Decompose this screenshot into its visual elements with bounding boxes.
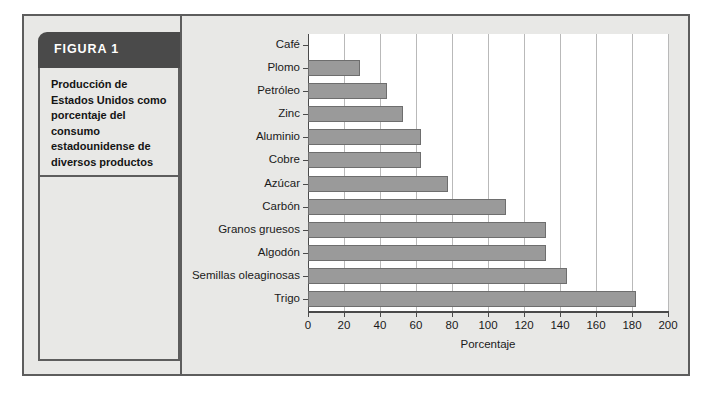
bar-carbón xyxy=(308,199,506,215)
x-tick-180 xyxy=(632,311,633,317)
y-tick-5 xyxy=(303,160,308,161)
x-tick-label-60: 60 xyxy=(396,319,436,331)
x-tick-label-100: 100 xyxy=(468,319,508,331)
x-tick-40 xyxy=(380,311,381,317)
x-tick-100 xyxy=(488,311,489,317)
y-tick-1 xyxy=(303,68,308,69)
bar-row xyxy=(308,149,668,172)
bar-row xyxy=(308,80,668,103)
figure-number-label: FIGURA 1 xyxy=(54,42,119,56)
y-tick-0 xyxy=(303,45,308,46)
y-tick-7 xyxy=(303,207,308,208)
x-tick-label-160: 160 xyxy=(576,319,616,331)
y-axis-label-algodón: Algodón xyxy=(130,246,300,258)
bar-aluminio xyxy=(308,129,421,145)
bar-row xyxy=(308,173,668,196)
bar-semillas-oleaginosas xyxy=(308,268,567,284)
y-axis-label-trigo: Trigo xyxy=(130,292,300,304)
y-axis-label-petróleo: Petróleo xyxy=(130,84,300,96)
x-tick-label-80: 80 xyxy=(432,319,472,331)
y-tick-8 xyxy=(303,230,308,231)
y-axis-label-plomo: Plomo xyxy=(130,61,300,73)
x-tick-160 xyxy=(596,311,597,317)
bar-row xyxy=(308,103,668,126)
y-tick-6 xyxy=(303,184,308,185)
y-tick-3 xyxy=(303,114,308,115)
x-tick-60 xyxy=(416,311,417,317)
y-axis-label-semillas-oleaginosas: Semillas oleaginosas xyxy=(130,269,300,281)
y-tick-10 xyxy=(303,276,308,277)
x-tick-label-40: 40 xyxy=(360,319,400,331)
x-tick-120 xyxy=(524,311,525,317)
bar-trigo xyxy=(308,291,636,307)
y-axis-label-granos-gruesos: Granos gruesos xyxy=(130,223,300,235)
y-tick-2 xyxy=(303,91,308,92)
gridline-200 xyxy=(668,34,669,311)
bar-zinc xyxy=(308,106,403,122)
x-tick-label-200: 200 xyxy=(648,319,688,331)
bar-azúcar xyxy=(308,176,448,192)
bar-plomo xyxy=(308,60,360,76)
x-tick-20 xyxy=(344,311,345,317)
bar-row xyxy=(308,57,668,80)
bar-row xyxy=(308,34,668,57)
x-axis-title: Porcentaje xyxy=(308,338,668,350)
x-tick-80 xyxy=(452,311,453,317)
x-tick-200 xyxy=(668,311,669,317)
x-tick-label-140: 140 xyxy=(540,319,580,331)
bar-row xyxy=(308,196,668,219)
y-tick-11 xyxy=(303,299,308,300)
bar-granos-gruesos xyxy=(308,222,546,238)
chart-panel: CaféPlomoPetróleoZincAluminioCobreAzúcar… xyxy=(182,16,688,374)
x-tick-label-20: 20 xyxy=(324,319,364,331)
y-tick-4 xyxy=(303,137,308,138)
x-tick-140 xyxy=(560,311,561,317)
bar-row xyxy=(308,265,668,288)
y-axis-label-aluminio: Aluminio xyxy=(130,130,300,142)
bar-row xyxy=(308,126,668,149)
bar-petróleo xyxy=(308,83,387,99)
y-axis-label-zinc: Zinc xyxy=(130,107,300,119)
figure-frame: FIGURA 1 Producción de Estados Unidos co… xyxy=(22,14,690,376)
x-tick-label-120: 120 xyxy=(504,319,544,331)
x-tick-label-0: 0 xyxy=(288,319,328,331)
bar-cobre xyxy=(308,152,421,168)
plot-area xyxy=(308,34,668,311)
bar-row xyxy=(308,219,668,242)
y-axis-label-cobre: Cobre xyxy=(130,153,300,165)
y-tick-9 xyxy=(303,253,308,254)
y-axis-label-café: Café xyxy=(130,38,300,50)
x-tick-0 xyxy=(308,311,309,317)
x-tick-label-180: 180 xyxy=(612,319,652,331)
bar-algodón xyxy=(308,245,546,261)
y-axis-label-azúcar: Azúcar xyxy=(130,177,300,189)
y-axis-label-carbón: Carbón xyxy=(130,200,300,212)
bar-row xyxy=(308,242,668,265)
bar-row xyxy=(308,288,668,311)
